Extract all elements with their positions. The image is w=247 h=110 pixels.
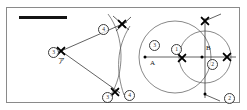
- screenshot-root: 3ア4343A1B22: [0, 0, 247, 110]
- label-4-top: 4: [98, 24, 109, 35]
- label-point-a: A: [150, 60, 155, 67]
- label-a-kana: ア: [58, 58, 65, 65]
- label-point-b: B: [206, 45, 210, 52]
- label-1-mid: 1: [171, 44, 182, 55]
- label-3-bottom: 3: [102, 92, 113, 103]
- label-3-circle: 3: [149, 40, 160, 51]
- label-2-right: 2: [207, 59, 218, 70]
- figure-frame: [6, 7, 240, 103]
- label-2-bottom: 2: [224, 93, 235, 104]
- label-4-bottom: 4: [124, 90, 135, 101]
- redaction-bar: [19, 16, 67, 19]
